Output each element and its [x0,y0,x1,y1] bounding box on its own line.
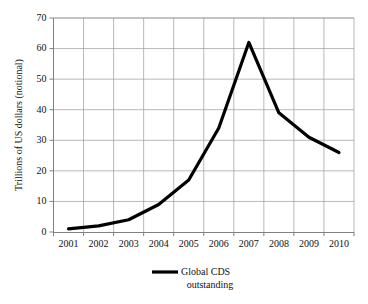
y-tick-label: 70 [37,12,47,23]
x-tick-label: 2006 [209,238,229,249]
y-tick-label: 30 [37,134,47,145]
chart-background [0,0,368,304]
x-tick-label: 2009 [299,238,319,249]
y-tick-label: 40 [37,104,47,115]
y-tick-label: 50 [37,73,47,84]
y-tick-label: 10 [37,195,47,206]
cds-line-chart: 010203040506070 200120022003200420052006… [0,0,368,304]
y-tick-label: 20 [37,165,47,176]
y-tick-label: 0 [42,226,47,237]
x-tick-label: 2007 [239,238,259,249]
x-tick-label: 2005 [179,238,199,249]
legend-label-line2: outstanding [187,279,234,290]
x-tick-label: 2001 [59,238,79,249]
x-tick-label: 2010 [329,238,349,249]
chart-figure: 010203040506070 200120022003200420052006… [0,0,368,304]
x-tick-label: 2002 [89,238,109,249]
y-tick-label: 60 [37,42,47,53]
x-tick-label: 2008 [269,238,289,249]
legend-label-line1: Global CDS [181,266,230,277]
y-axis-title: Trillions of US dollars (notional) [13,59,25,191]
x-tick-label: 2003 [119,238,139,249]
x-tick-label: 2004 [149,238,169,249]
